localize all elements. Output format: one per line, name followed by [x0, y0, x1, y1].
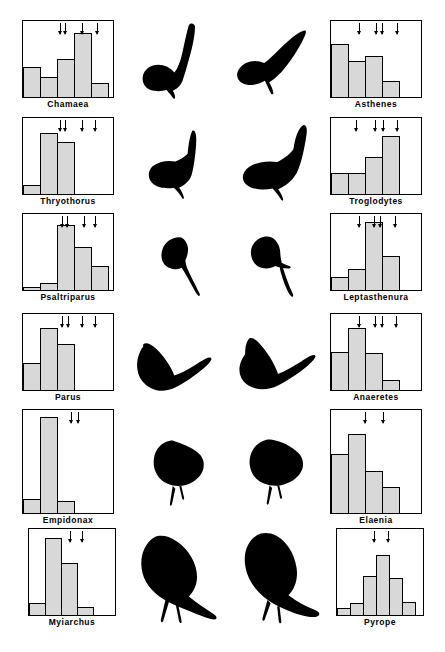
bar — [382, 136, 400, 194]
elaenia-silhouette — [246, 430, 306, 516]
histogram-cell-troglodytes: Troglodytes — [330, 117, 422, 206]
bar — [23, 185, 41, 194]
bar — [23, 287, 41, 290]
genus-label: Psaltriparus — [22, 292, 114, 302]
bar — [57, 344, 75, 390]
bar — [77, 607, 94, 615]
bar — [365, 471, 383, 513]
bar — [348, 328, 366, 390]
wren-silhouette-glyph — [140, 126, 206, 200]
bar — [382, 487, 400, 513]
bar — [382, 380, 400, 390]
bar — [348, 434, 366, 513]
bar — [348, 61, 366, 97]
histogram-cell-myiarchus: Myiarchus — [28, 528, 116, 627]
bar-group — [331, 214, 421, 290]
bar — [363, 576, 377, 615]
histogram-cell-pyrope: Pyrope — [336, 528, 424, 627]
histogram-plot-thryothorus — [22, 117, 114, 195]
histogram-plot-myiarchus — [28, 528, 116, 616]
genus-label: Chamaea — [22, 99, 114, 109]
bar — [57, 59, 75, 97]
bar — [337, 608, 351, 615]
bar-group — [331, 410, 421, 513]
bar — [91, 83, 109, 97]
bar — [57, 501, 75, 513]
bar — [57, 225, 75, 290]
wrentit-silhouette-glyph — [138, 22, 200, 100]
myiarchus-silhouette — [138, 534, 220, 626]
bar-group — [23, 21, 113, 97]
bar — [331, 454, 349, 513]
genus-label: Empidonax — [22, 515, 114, 525]
bar — [40, 133, 58, 194]
histogram-cell-anaeretes: Anaeretes — [330, 313, 422, 402]
histogram-plot-pyrope — [336, 528, 424, 616]
genus-label: Pyrope — [336, 617, 424, 627]
pyrope-silhouette-glyph — [240, 532, 324, 626]
bar — [91, 266, 109, 290]
titmouse-silhouette — [136, 338, 214, 394]
bar — [331, 173, 349, 194]
histogram-plot-leptasthenura — [330, 213, 422, 291]
canastero-silhouette — [236, 22, 308, 100]
tit-spinetail-silhouette-glyph — [246, 234, 298, 298]
bar — [23, 499, 41, 513]
histogram-cell-elaenia: Elaenia — [330, 409, 422, 525]
histogram-plot-troglodytes — [330, 117, 422, 195]
genus-label: Elaenia — [330, 515, 422, 525]
histogram-plot-chamaea — [22, 20, 114, 98]
genus-label: Asthenes — [330, 99, 422, 109]
bar — [348, 269, 366, 290]
house-wren-silhouette — [238, 122, 312, 202]
bar-group — [23, 214, 113, 290]
histogram-cell-parus: Parus — [22, 313, 114, 402]
bar — [389, 578, 403, 615]
genus-label: Troglodytes — [330, 196, 422, 206]
bar — [348, 173, 366, 194]
canastero-silhouette-glyph — [236, 22, 308, 100]
genus-label: Myiarchus — [28, 617, 116, 627]
bar — [365, 56, 383, 97]
histogram-plot-asthenes — [330, 20, 422, 98]
bar-group — [23, 314, 113, 390]
bar — [57, 142, 75, 194]
bar — [40, 283, 58, 290]
bar-group — [331, 314, 421, 390]
bar — [74, 33, 92, 97]
bar — [331, 352, 349, 390]
titmouse-silhouette-glyph — [136, 338, 214, 394]
bar — [74, 247, 92, 290]
flycatcher-silhouette — [150, 432, 206, 516]
histogram-plot-elaenia — [330, 409, 422, 514]
bar — [23, 363, 41, 390]
tit-spinetail-silhouette — [246, 234, 298, 298]
flycatcher-silhouette-glyph — [150, 432, 206, 516]
myiarchus-silhouette-glyph — [138, 534, 220, 626]
genus-label: Leptasthenura — [330, 292, 422, 302]
bar — [331, 277, 349, 290]
genus-label: Parus — [22, 392, 114, 402]
bar-group — [337, 529, 423, 615]
bar — [382, 256, 400, 290]
bar-group — [29, 529, 115, 615]
wrentit-silhouette — [138, 22, 200, 100]
bar — [365, 157, 383, 194]
bushtit-silhouette — [158, 236, 204, 298]
genus-label: Thryothorus — [22, 196, 114, 206]
bar — [40, 328, 58, 390]
pyrope-silhouette — [240, 532, 324, 626]
elaenia-silhouette-glyph — [246, 430, 306, 516]
bar — [23, 67, 41, 97]
bar — [61, 563, 78, 615]
bar — [365, 353, 383, 390]
histogram-cell-psaltriparus: Psaltriparus — [22, 213, 114, 302]
bar — [402, 602, 416, 615]
histogram-plot-anaeretes — [330, 313, 422, 391]
house-wren-silhouette-glyph — [238, 122, 312, 202]
wren-silhouette — [140, 126, 206, 200]
bar — [45, 538, 62, 615]
bushtit-silhouette-glyph — [158, 236, 204, 298]
bar — [350, 603, 364, 615]
histogram-plot-empidonax — [22, 409, 114, 514]
